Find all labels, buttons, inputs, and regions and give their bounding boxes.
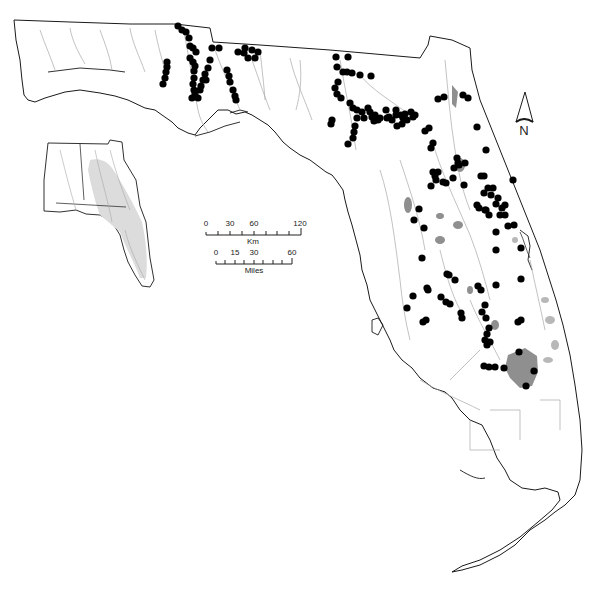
occurrence-point — [194, 94, 201, 101]
occurrence-point — [442, 179, 449, 186]
occurrence-point — [446, 300, 453, 307]
occurrence-point — [487, 191, 494, 198]
occurrence-point — [489, 184, 496, 191]
occurrence-point — [422, 316, 429, 323]
occurrence-point — [420, 224, 427, 231]
scale-miles-unit: Miles — [245, 266, 264, 275]
occurrence-point — [480, 172, 487, 179]
scale-bar-km — [206, 228, 301, 235]
occurrence-point — [510, 221, 517, 228]
occurrence-point — [458, 314, 465, 321]
scale-km-unit: Km — [247, 237, 259, 246]
occurrence-point — [348, 69, 355, 76]
occurrence-point — [185, 34, 192, 41]
occurrence-point — [162, 68, 169, 75]
occurrence-point — [530, 367, 537, 374]
occurrence-point — [504, 222, 511, 229]
occurrence-point — [492, 228, 499, 235]
occurrence-point — [509, 176, 516, 183]
scale-miles-tick-30: 30 — [250, 248, 259, 257]
occurrence-point — [234, 48, 241, 55]
occurrence-point — [241, 44, 248, 51]
occurrence-point — [501, 201, 508, 208]
occurrence-point — [522, 382, 529, 389]
scale-km-tick-120: 120 — [293, 219, 307, 228]
occurrence-point — [349, 134, 356, 141]
occurrence-point — [382, 106, 389, 113]
occurrence-point — [443, 270, 450, 277]
occurrence-point — [403, 304, 410, 311]
occurrence-point — [481, 301, 488, 308]
occurrence-point — [226, 78, 233, 85]
occurrence-point — [344, 140, 351, 147]
occurrence-point — [328, 116, 335, 123]
occurrence-point — [190, 74, 197, 81]
occurrence-point — [480, 189, 487, 196]
occurrence-point — [344, 53, 351, 60]
occurrence-point — [515, 348, 522, 355]
occurrence-point — [189, 80, 196, 87]
scale-miles-tick-60: 60 — [288, 248, 297, 257]
occurrence-point — [473, 123, 480, 130]
occurrence-point — [411, 111, 418, 118]
occurrence-point — [427, 144, 434, 151]
occurrence-point — [410, 216, 417, 223]
occurrence-point — [356, 71, 363, 78]
occurrence-point — [492, 281, 499, 288]
occurrence-point — [409, 292, 416, 299]
occurrence-point — [501, 211, 508, 218]
occurrence-point — [481, 206, 488, 213]
occurrence-point — [225, 72, 232, 79]
occurrence-point — [482, 146, 489, 153]
occurrence-point — [202, 76, 209, 83]
occurrence-point — [486, 338, 493, 345]
occurrence-point — [333, 63, 340, 70]
occurrence-point — [492, 200, 499, 207]
occurrence-point — [415, 205, 422, 212]
occurrence-point — [350, 128, 357, 135]
occurrence-point — [418, 254, 425, 261]
occurrence-point — [434, 168, 441, 175]
occurrence-point — [427, 182, 434, 189]
occurrence-point — [244, 54, 251, 61]
north-label: N — [519, 123, 528, 138]
occurrence-point — [332, 53, 339, 60]
occurrence-point — [215, 44, 222, 51]
occurrence-point — [500, 364, 507, 371]
occurrence-point — [376, 114, 383, 121]
occurrence-point — [192, 48, 199, 55]
occurrence-point — [434, 95, 441, 102]
species-occurrence-map: 0 30 60 120 Km 0 15 30 60 Miles N — [0, 0, 601, 594]
scale-miles-tick-0: 0 — [214, 248, 219, 257]
occurrence-point — [464, 94, 471, 101]
occurrence-point — [360, 114, 367, 121]
occurrence-point — [517, 316, 524, 323]
occurrence-point — [451, 276, 458, 283]
occurrence-point — [353, 114, 360, 121]
inset-map — [44, 140, 154, 287]
occurrence-point — [367, 72, 374, 79]
occurrence-point — [204, 64, 211, 71]
scale-miles-tick-15: 15 — [231, 248, 240, 257]
north-arrow-icon — [516, 92, 533, 122]
scale-bar-miles — [216, 258, 292, 264]
occurrence-point — [455, 161, 462, 168]
occurrence-point — [517, 244, 524, 251]
occurrence-point — [432, 176, 439, 183]
occurrence-point — [449, 174, 456, 181]
occurrence-point — [478, 308, 485, 315]
occurrence-point — [232, 96, 239, 103]
occurrence-point — [393, 122, 400, 129]
occurrence-point — [460, 181, 467, 188]
occurrence-point — [159, 80, 166, 87]
occurrence-point — [424, 286, 431, 293]
occurrence-point — [208, 44, 215, 51]
scale-km-tick-30: 30 — [226, 219, 235, 228]
occurrence-point — [251, 54, 258, 61]
scale-km-tick-60: 60 — [250, 219, 259, 228]
occurrence-point — [190, 67, 197, 74]
occurrence-point — [492, 246, 499, 253]
scale-km-tick-0: 0 — [204, 219, 209, 228]
occurrence-point — [491, 363, 498, 370]
occurrence-point — [517, 275, 524, 282]
